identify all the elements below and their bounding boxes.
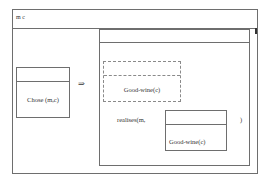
predicate-prefix: realises(m, — [117, 117, 145, 124]
predicate-argument-condition: Good-wine(c) — [169, 139, 205, 146]
antecedent-condition: Chose (m,c) — [17, 97, 69, 104]
predicate-argument-box: Good-wine(c) — [165, 110, 227, 151]
inner-dashed-divider — [104, 75, 180, 76]
edge-mark — [255, 28, 257, 34]
inner-dashed-box: Good-wine(c) — [103, 61, 181, 102]
consequent-divider — [100, 42, 249, 43]
antecedent-box: Chose (m,c) — [16, 67, 70, 118]
predicate-suffix: ) — [240, 117, 242, 124]
outer-drs-universe: m c — [16, 14, 25, 20]
inner-dashed-condition: Good-wine(c) — [104, 87, 180, 94]
predicate-argument-divider — [166, 124, 226, 125]
implication-arrow-icon: ⇒ — [78, 80, 85, 88]
antecedent-divider — [17, 81, 69, 82]
